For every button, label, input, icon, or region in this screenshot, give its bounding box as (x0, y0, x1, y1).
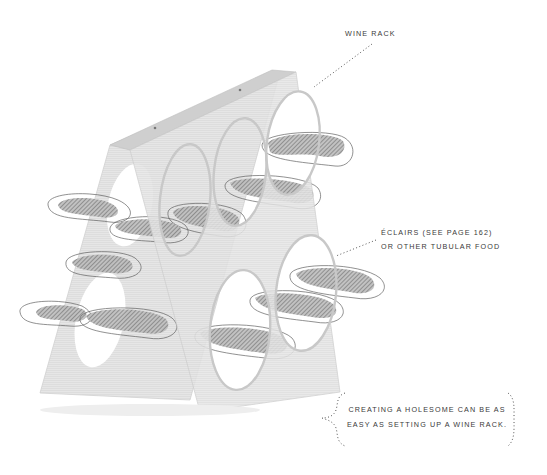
eclairs-leader (336, 240, 376, 256)
callout-line1: CREATING A HOLESOME CAN BE AS (343, 402, 511, 417)
eclairs-label-line1: ÉCLAIRS (SEE PAGE 162) (381, 226, 500, 240)
eclairs-label-line2: OR OTHER TUBULAR FOOD (381, 240, 500, 254)
callout-text: CREATING A HOLESOME CAN BE AS EASY AS SE… (343, 402, 511, 432)
wine-rack-leader (314, 44, 372, 87)
eclairs-label: ÉCLAIRS (SEE PAGE 162) OR OTHER TUBULAR … (381, 226, 500, 254)
floor-shadow (40, 404, 260, 416)
wine-rack-label: WINE RACK (345, 27, 396, 41)
callout-line2: EASY AS SETTING UP A WINE RACK. (343, 417, 511, 432)
holesome-callout: CREATING A HOLESOME CAN BE AS EASY AS SE… (343, 394, 511, 440)
wine-rack-label-text: WINE RACK (345, 27, 396, 41)
